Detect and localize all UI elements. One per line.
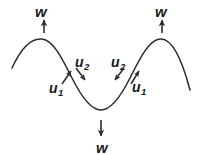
u2-right-label: u2 [111,55,125,69]
w-bottom-label: w [96,140,107,155]
diagram-canvas [0,0,201,155]
u2-left-subscript: 2 [84,61,89,72]
u1-left-label: u1 [49,81,63,95]
u2-left-label: u2 [75,55,89,69]
u2-right-subscript: 2 [120,61,125,72]
u1-left-base: u [49,80,58,96]
u1-left-subscript: 1 [58,87,63,98]
w-left-label: w [35,4,46,19]
u1-right-subscript: 1 [141,86,146,97]
wave-curve [12,39,190,110]
w-right-label: w [155,4,166,19]
u2-right-base: u [111,54,120,70]
u1-right-base: u [132,79,141,95]
u1-left-arrow [62,71,71,84]
u1-right-label: u1 [132,80,146,94]
wave-vector-diagram: w w w u1 u2 u2 u1 [0,0,201,155]
u2-left-base: u [75,54,84,70]
